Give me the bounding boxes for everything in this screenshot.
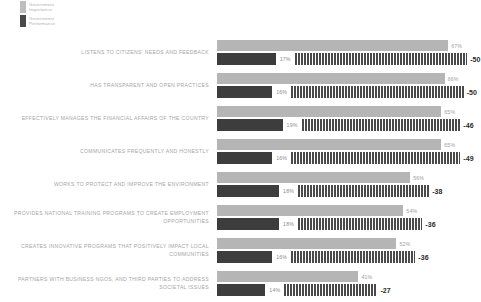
row-bars: 41%14%-27 bbox=[217, 267, 477, 300]
importance-bar bbox=[217, 139, 441, 150]
chart-row: PARTNERS WITH BUSINESS NGOS, AND THIRD P… bbox=[0, 267, 477, 300]
row-bars: 54%18%-36 bbox=[217, 201, 477, 234]
legend-swatch-importance bbox=[20, 1, 26, 13]
performance-value: 17% bbox=[280, 56, 291, 62]
performance-bar bbox=[217, 53, 276, 65]
gap-value: -36 bbox=[425, 221, 435, 228]
row-bars: 56%18%-38 bbox=[217, 168, 477, 201]
importance-value: 56% bbox=[413, 175, 424, 181]
gap-bar bbox=[284, 284, 377, 296]
importance-value: 41% bbox=[361, 274, 372, 280]
importance-bar bbox=[217, 205, 403, 216]
performance-bar-group: 17%-50 bbox=[217, 53, 481, 65]
importance-value: 54% bbox=[406, 208, 417, 214]
performance-value: 18% bbox=[283, 221, 294, 227]
performance-bar bbox=[217, 185, 279, 197]
performance-bar-group: 14%-27 bbox=[217, 284, 391, 296]
importance-bar bbox=[217, 172, 410, 183]
importance-value: 67% bbox=[451, 43, 462, 49]
importance-bar-group: 65% bbox=[217, 106, 455, 117]
gap-value: -46 bbox=[463, 122, 473, 129]
row-bars: 65%16%-49 bbox=[217, 135, 477, 168]
performance-bar-group: 16%-50 bbox=[217, 86, 477, 98]
performance-bar bbox=[217, 218, 279, 230]
importance-value: 65% bbox=[444, 109, 455, 115]
legend-item-importance: Government Importance bbox=[20, 1, 140, 13]
performance-value: 19% bbox=[287, 122, 298, 128]
importance-bar bbox=[217, 40, 448, 51]
gap-bar bbox=[302, 119, 461, 131]
performance-bar-group: 18%-36 bbox=[217, 218, 436, 230]
performance-value: 18% bbox=[283, 188, 294, 194]
chart-row: WORKS TO PROTECT AND IMPROVE THE ENVIRON… bbox=[0, 168, 477, 201]
performance-value: 16% bbox=[276, 89, 287, 95]
importance-value: 52% bbox=[399, 241, 410, 247]
performance-value: 16% bbox=[276, 155, 287, 161]
legend-swatch-performance bbox=[20, 15, 26, 27]
row-label: PARTNERS WITH BUSINESS NGOS, AND THIRD P… bbox=[0, 267, 209, 300]
performance-bar bbox=[217, 152, 272, 164]
importance-value: 65% bbox=[444, 142, 455, 148]
performance-value: 14% bbox=[269, 287, 280, 293]
legend-item-performance: Government Performance bbox=[20, 15, 140, 27]
chart-row: EFFECTIVELY MANAGES THE FINANCIAL AFFAIR… bbox=[0, 102, 477, 135]
importance-bar bbox=[217, 73, 445, 84]
importance-value: 66% bbox=[448, 76, 459, 82]
legend-label-performance: Government Performance bbox=[29, 15, 55, 26]
importance-bar-group: 66% bbox=[217, 73, 459, 84]
performance-bar bbox=[217, 119, 283, 131]
performance-bar bbox=[217, 251, 272, 263]
gap-bar bbox=[298, 218, 422, 230]
gap-value: -50 bbox=[467, 89, 477, 96]
importance-bar bbox=[217, 271, 358, 282]
chart-legend: Government ImportanceGovernment Performa… bbox=[20, 1, 140, 29]
row-bars: 65%19%-46 bbox=[217, 102, 477, 135]
importance-bar-group: 54% bbox=[217, 205, 417, 216]
chart-rows: LISTENS TO CITIZENS' NEEDS AND FEEDBACK6… bbox=[0, 36, 477, 300]
performance-bar-group: 18%-38 bbox=[217, 185, 443, 197]
importance-bar bbox=[217, 106, 441, 117]
row-bars: 52%16%-36 bbox=[217, 234, 477, 267]
gap-bar bbox=[291, 86, 464, 98]
row-label: HAS TRANSPARENT AND OPEN PRACTICES bbox=[0, 69, 209, 102]
row-bars: 66%16%-50 bbox=[217, 69, 477, 102]
importance-bar-group: 67% bbox=[217, 40, 462, 51]
performance-bar-group: 16%-36 bbox=[217, 251, 429, 263]
importance-bar-group: 65% bbox=[217, 139, 455, 150]
row-label: PROVIDES NATIONAL TRAINING PROGRAMS TO C… bbox=[0, 201, 209, 234]
chart-row: COMMUNICATES FREQUENTLY AND HONESTLY65%1… bbox=[0, 135, 477, 168]
importance-bar bbox=[217, 238, 396, 249]
gap-bar bbox=[291, 251, 415, 263]
performance-value: 16% bbox=[276, 254, 287, 260]
performance-bar bbox=[217, 86, 272, 98]
gap-bar bbox=[298, 185, 429, 197]
row-bars: 67%17%-50 bbox=[217, 36, 477, 69]
gap-value: -49 bbox=[463, 155, 473, 162]
chart-row: LISTENS TO CITIZENS' NEEDS AND FEEDBACK6… bbox=[0, 36, 477, 69]
row-label: EFFECTIVELY MANAGES THE FINANCIAL AFFAIR… bbox=[0, 102, 209, 135]
chart-row: CREATES INNOVATIVE PROGRAMS THAT POSITIV… bbox=[0, 234, 477, 267]
gap-bar bbox=[291, 152, 460, 164]
gap-value: -38 bbox=[432, 188, 442, 195]
gap-value: -36 bbox=[418, 254, 428, 261]
importance-bar-group: 52% bbox=[217, 238, 410, 249]
row-label: LISTENS TO CITIZENS' NEEDS AND FEEDBACK bbox=[0, 36, 209, 69]
row-label: CREATES INNOVATIVE PROGRAMS THAT POSITIV… bbox=[0, 234, 209, 267]
row-label: WORKS TO PROTECT AND IMPROVE THE ENVIRON… bbox=[0, 168, 209, 201]
gap-value: -50 bbox=[470, 56, 480, 63]
performance-bar bbox=[217, 284, 265, 296]
chart-row: PROVIDES NATIONAL TRAINING PROGRAMS TO C… bbox=[0, 201, 477, 234]
performance-bar-group: 19%-46 bbox=[217, 119, 474, 131]
gap-bar bbox=[295, 53, 468, 65]
row-label: COMMUNICATES FREQUENTLY AND HONESTLY bbox=[0, 135, 209, 168]
chart-row: HAS TRANSPARENT AND OPEN PRACTICES66%16%… bbox=[0, 69, 477, 102]
importance-bar-group: 56% bbox=[217, 172, 424, 183]
gap-value: -27 bbox=[380, 287, 390, 294]
importance-bar-group: 41% bbox=[217, 271, 372, 282]
legend-label-importance: Government Importance bbox=[29, 1, 54, 12]
performance-bar-group: 16%-49 bbox=[217, 152, 474, 164]
